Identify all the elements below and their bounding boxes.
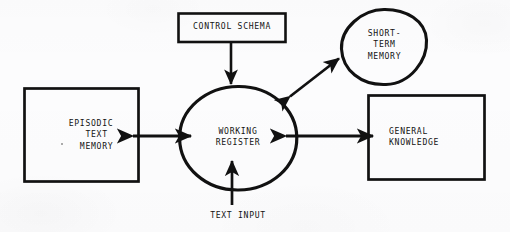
control-schema-box — [179, 14, 286, 43]
diagram-canvas: CONTROL SCHEMA SHORT- TERM MEMORY EPISOD… — [0, 0, 510, 232]
short-term-memory-ellipse — [341, 9, 426, 84]
working-register-ellipse — [180, 86, 297, 190]
episodic-text-memory-box — [25, 89, 139, 182]
edge-working-register-to-short-term-memory — [290, 59, 339, 97]
diagram-vector-layer — [0, 0, 510, 232]
general-knowledge-box — [369, 96, 485, 180]
